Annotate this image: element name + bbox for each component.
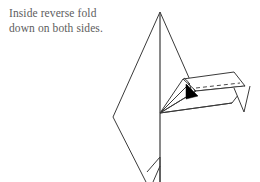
origami-instruction-page: Inside reverse fold down on both sides. bbox=[0, 0, 260, 182]
body-right-edge bbox=[160, 12, 201, 105]
wing-tip-v-notch bbox=[234, 86, 250, 112]
wing-lower-panel bbox=[160, 86, 245, 113]
bottom-tail-tab-edge bbox=[153, 166, 160, 182]
airplane-body-outline bbox=[113, 12, 160, 182]
origami-diagram bbox=[0, 0, 260, 182]
